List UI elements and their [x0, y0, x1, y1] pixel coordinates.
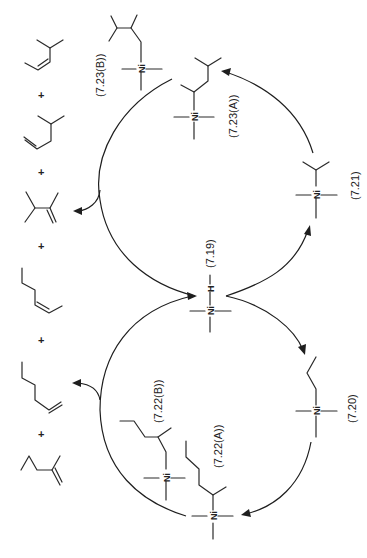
- label-7-22A: (7.22(A)): [212, 425, 224, 468]
- arrowhead-icon: [221, 68, 231, 76]
- compound-7-22A: Ni: [186, 441, 233, 539]
- arrowhead-icon: [72, 379, 81, 387]
- product-4-methyl-1-pentene: [24, 116, 64, 149]
- nickel-atom: Ni: [162, 473, 172, 482]
- insertion-arrow-to-7-21: [226, 230, 308, 296]
- arrowhead-icon: [304, 225, 311, 236]
- nickel-atom: Ni: [312, 190, 322, 199]
- hydrogen-atom: H: [206, 286, 216, 293]
- label-7-23B: (7.23(B)): [94, 54, 106, 97]
- plus-sign: +: [38, 334, 44, 346]
- product-2-hexene: [22, 268, 62, 313]
- nickel-atom: Ni: [190, 112, 200, 121]
- insertion-arrow-to-7-22A: [246, 442, 311, 514]
- catalytic-cycle-diagram: + + + + +: [0, 0, 367, 558]
- nickel-atom: Ni: [206, 306, 216, 315]
- plus-sign: +: [38, 166, 44, 178]
- cycle-arc-upper-left: [99, 79, 195, 296]
- cycle-arc-lower-left: [100, 296, 192, 516]
- compound-7-22B: Ni: [120, 421, 185, 500]
- nickel-atom: Ni: [209, 511, 219, 520]
- plus-sign: +: [38, 89, 44, 101]
- product-2-3-dimethyl-1-butene: [25, 192, 58, 223]
- product-2-methyl-1-pentene: [21, 456, 62, 485]
- arrowhead-icon: [73, 207, 82, 215]
- elimination-arrow-lower: [78, 383, 100, 400]
- compound-7-20: Ni: [296, 357, 337, 437]
- insertion-arrow-to-7-23A: [226, 72, 313, 153]
- nickel-atom: Ni: [137, 64, 147, 73]
- label-7-20: (7.20): [346, 394, 358, 423]
- compound-7-23A: Ni: [174, 58, 221, 139]
- label-7-23A: (7.23(A)): [227, 95, 239, 138]
- arrowhead-icon: [298, 344, 306, 355]
- compound-7-21: Ni: [296, 162, 337, 218]
- compound-7-19: H Ni: [190, 275, 231, 332]
- product-4-methyl-2-pentene: [25, 40, 63, 70]
- arrowhead-icon: [241, 509, 251, 517]
- plus-sign: +: [38, 240, 44, 252]
- label-7-21: (7.21): [349, 171, 361, 200]
- nickel-atom: Ni: [312, 406, 322, 415]
- label-7-19: (7.19): [204, 239, 216, 268]
- insertion-arrow-to-7-20: [226, 296, 303, 350]
- label-7-22B: (7.22(B)): [152, 380, 164, 423]
- product-1-hexene: [22, 362, 62, 413]
- compound-7-23B: Ni: [109, 15, 162, 90]
- plus-sign: +: [38, 428, 44, 440]
